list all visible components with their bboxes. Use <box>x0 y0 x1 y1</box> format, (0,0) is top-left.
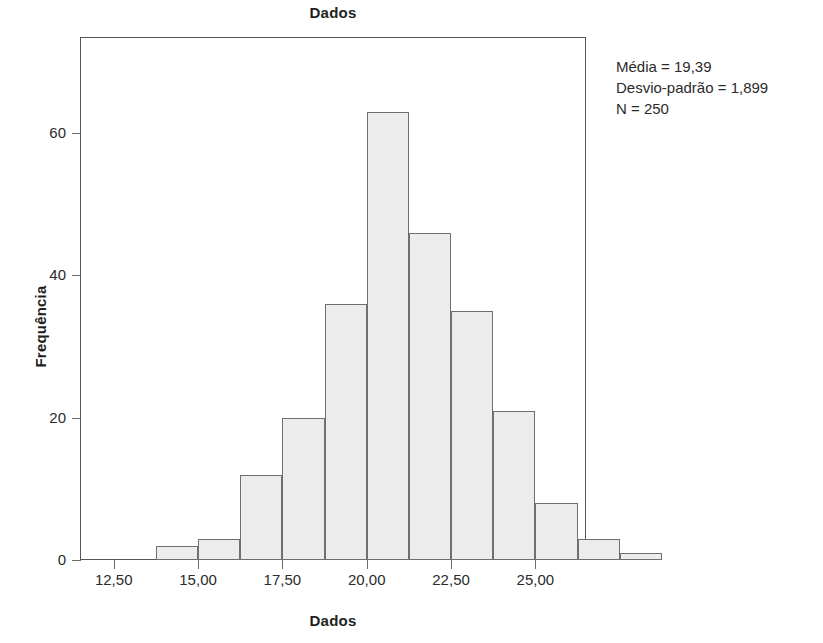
histogram-bar <box>198 539 240 560</box>
x-axis-tick-label: 12,50 <box>74 572 154 587</box>
x-axis-tick-label: 15,00 <box>158 572 238 587</box>
y-axis-tick-label: 20 <box>6 410 66 425</box>
histogram-bar <box>367 112 409 560</box>
y-axis-tick-label: 0 <box>6 552 66 567</box>
x-axis-tick-label: 17,50 <box>242 572 322 587</box>
plot-area <box>80 37 586 560</box>
histogram-bar <box>535 503 577 560</box>
stat-mean: Média = 19,39 <box>616 56 768 77</box>
x-axis-tick-label: 20,00 <box>327 572 407 587</box>
x-axis-tick <box>367 560 368 569</box>
x-axis-tick <box>114 560 115 569</box>
y-axis-title: Frequência <box>32 227 49 427</box>
histogram-bar <box>620 553 662 560</box>
x-axis-tick <box>451 560 452 569</box>
y-axis-tick <box>72 133 81 134</box>
x-axis-tick-label: 25,00 <box>495 572 575 587</box>
stat-n: N = 250 <box>616 98 768 119</box>
x-axis-tick-label: 22,50 <box>411 572 491 587</box>
y-axis-tick <box>72 275 81 276</box>
histogram-bar <box>240 475 282 560</box>
x-axis-tick <box>535 560 536 569</box>
histogram-bar <box>493 411 535 560</box>
x-axis-tick <box>198 560 199 569</box>
statistics-annotation: Média = 19,39 Desvio-padrão = 1,899 N = … <box>616 56 768 119</box>
histogram-bar <box>578 539 620 560</box>
histogram-bar <box>156 546 198 560</box>
y-axis-tick <box>72 418 81 419</box>
y-axis-tick-label: 40 <box>6 267 66 282</box>
x-axis-tick <box>282 560 283 569</box>
x-axis-title: Dados <box>80 612 586 629</box>
y-axis-tick <box>72 560 81 561</box>
chart-title: Dados <box>80 4 586 21</box>
y-axis-tick-label: 60 <box>6 125 66 140</box>
histogram-bar <box>451 311 493 560</box>
stat-sd: Desvio-padrão = 1,899 <box>616 77 768 98</box>
histogram-figure: Dados Frequência 0204060 12,5015,0017,50… <box>0 0 823 643</box>
histogram-bar <box>325 304 367 560</box>
histogram-bar <box>282 418 324 560</box>
histogram-bar <box>409 233 451 560</box>
